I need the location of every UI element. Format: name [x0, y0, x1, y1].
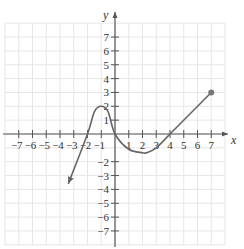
y-tick-label: −4 — [97, 183, 109, 195]
y-tick-label: 7 — [104, 31, 110, 43]
y-tick-label: 5 — [104, 59, 110, 71]
y-tick-label: −7 — [97, 225, 109, 237]
x-tick-label: −4 — [52, 139, 64, 151]
x-axis-label: x — [230, 133, 237, 147]
x-tick-label: −7 — [11, 139, 23, 151]
x-tick-label: −6 — [25, 139, 37, 151]
axes — [3, 12, 228, 247]
x-tick-label: −1 — [93, 139, 105, 151]
y-axis-label: y — [102, 8, 109, 22]
x-tick-label: 4 — [167, 139, 173, 151]
y-tick-label: 3 — [104, 86, 110, 98]
y-tick-label: −2 — [97, 156, 109, 168]
x-tick-label: −3 — [66, 139, 78, 151]
function-curve — [68, 89, 214, 183]
function-graph: −7−6−5−4−3−2−112345677654321−2−3−4−5−6−7… — [0, 0, 244, 249]
x-tick-label: 6 — [195, 139, 201, 151]
x-tick-label: 2 — [140, 139, 146, 151]
y-tick-label: −3 — [97, 170, 109, 182]
x-tick-label: −5 — [38, 139, 50, 151]
x-tick-label: 7 — [209, 139, 215, 151]
x-tick-label: 5 — [181, 139, 187, 151]
y-tick-label: 1 — [104, 114, 110, 126]
arrow-icon — [68, 176, 74, 184]
y-tick-label: 4 — [104, 73, 110, 85]
endpoint-dot — [208, 89, 214, 95]
y-tick-label: −5 — [97, 197, 109, 209]
y-tick-label: −6 — [97, 211, 109, 223]
y-tick-label: 6 — [104, 45, 110, 57]
